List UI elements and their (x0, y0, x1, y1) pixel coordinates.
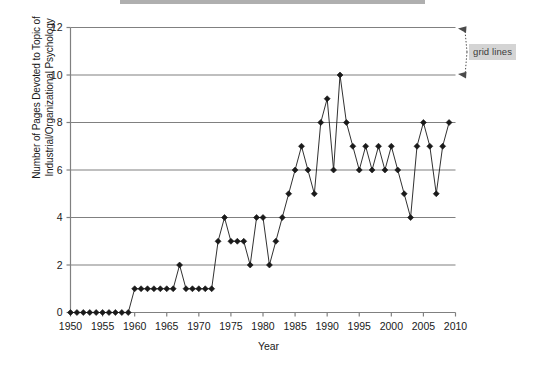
svg-text:2000: 2000 (380, 320, 404, 332)
chart-plot-area: 1950195519601965197019751980198519901995… (0, 0, 537, 372)
svg-text:1970: 1970 (187, 320, 211, 332)
x-axis-title: Year (0, 340, 537, 352)
svg-text:4: 4 (57, 211, 63, 223)
x-tick-group: 1950195519601965197019751980198519901995… (59, 313, 468, 332)
svg-text:0: 0 (57, 306, 63, 318)
grid-lines-annotation-arrows (458, 26, 467, 78)
svg-text:1955: 1955 (91, 320, 115, 332)
chart-figure: 1950195519601965197019751980198519901995… (0, 0, 537, 372)
svg-text:1950: 1950 (59, 320, 83, 332)
svg-text:1960: 1960 (123, 320, 147, 332)
svg-text:1975: 1975 (219, 320, 243, 332)
svg-text:1995: 1995 (348, 320, 372, 332)
svg-text:1965: 1965 (155, 320, 179, 332)
y-axis-title: Number of Pages Devoted to Topic of Indu… (31, 0, 56, 223)
gridlines-group (71, 28, 456, 266)
grid-lines-annotation-label: grid lines (469, 44, 516, 60)
svg-text:2005: 2005 (412, 320, 436, 332)
svg-text:2010: 2010 (444, 320, 468, 332)
data-series-markers (68, 72, 453, 316)
svg-text:2: 2 (57, 259, 63, 271)
svg-text:1980: 1980 (251, 320, 275, 332)
svg-text:1985: 1985 (283, 320, 307, 332)
svg-text:6: 6 (57, 164, 63, 176)
svg-text:8: 8 (57, 116, 63, 128)
svg-text:1990: 1990 (315, 320, 339, 332)
data-series-line (71, 75, 450, 313)
